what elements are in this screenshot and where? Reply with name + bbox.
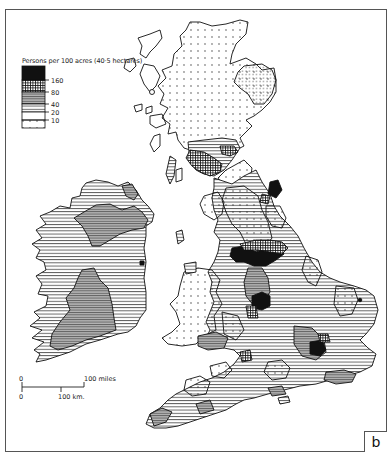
scale-bar — [22, 382, 84, 392]
dartmoor-dots — [184, 376, 210, 396]
western-isles — [138, 30, 162, 58]
legend-swatch-80-160 — [22, 80, 45, 92]
legend — [22, 66, 49, 128]
legend-tick-80: 80 — [51, 89, 59, 97]
legend-tick-10: 10 — [51, 117, 59, 125]
legend-tick-160: 160 — [51, 77, 63, 85]
scale-km-label: 100 km. — [58, 393, 85, 401]
legend-swatch-under-10 — [22, 120, 45, 128]
legend-swatch-20-40 — [22, 104, 45, 112]
population-density-map — [0, 0, 391, 458]
tyneside-dense — [268, 180, 282, 198]
scale-km-zero: 0 — [19, 393, 23, 401]
figure-label: b — [364, 431, 387, 452]
scale-miles-label: 100 miles — [84, 375, 116, 383]
legend-title: Persons per 100 acres (40·5 hectares) — [22, 57, 142, 65]
legend-tick-40: 40 — [51, 101, 59, 109]
legend-tick-20: 20 — [51, 109, 59, 117]
legend-swatch-over-160 — [22, 66, 45, 80]
scale-miles-zero: 0 — [19, 375, 23, 383]
isle-of-wight — [278, 396, 290, 404]
ireland — [30, 180, 154, 362]
isle-of-man — [176, 230, 184, 244]
legend-swatch-40-80 — [22, 92, 45, 104]
england-wales — [146, 170, 378, 428]
dublin-dense — [140, 261, 144, 265]
sussex-grey — [324, 370, 356, 384]
anglesey — [184, 262, 196, 274]
scotland — [124, 20, 276, 188]
bristol-grid — [240, 350, 252, 362]
legend-swatch-10-20 — [22, 112, 45, 120]
